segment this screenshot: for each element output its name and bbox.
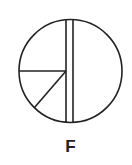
figure-label: F [0,138,132,156]
diagonal-divider [35,71,67,108]
divided-circle-figure: F [0,0,132,165]
